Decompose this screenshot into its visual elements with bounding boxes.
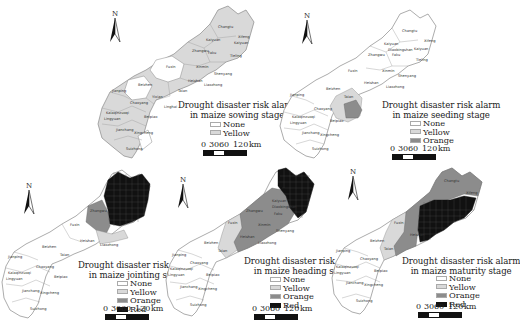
svg-text:Kalaqinzuoqi: Kalaqinzuoqi <box>292 115 315 119</box>
map-caption: Drought disaster risk alarm in maize see… <box>382 100 500 120</box>
svg-text:Diaobingshan: Diaobingshan <box>388 48 413 52</box>
svg-text:Taian: Taian <box>343 95 353 99</box>
svg-text:Taian: Taian <box>383 247 393 251</box>
svg-text:Xinmin: Xinmin <box>196 65 209 69</box>
svg-text:Liaozhong: Liaozhong <box>204 83 222 87</box>
svg-text:Shenyang: Shenyang <box>398 74 416 78</box>
svg-text:Chaoyang: Chaoyang <box>314 107 332 111</box>
svg-text:Beizhen: Beizhen <box>326 87 340 91</box>
svg-text:Changtu: Changtu <box>444 179 459 183</box>
svg-text:Zhangwu: Zhangwu <box>246 209 263 213</box>
svg-text:Xingcheng: Xingcheng <box>364 283 383 287</box>
svg-text:Liaozhong: Liaozhong <box>386 85 404 89</box>
svg-text:Heishan: Heishan <box>240 235 255 239</box>
svg-text:Xingcheng: Xingcheng <box>134 131 153 135</box>
svg-text:Lingyuan: Lingyuan <box>290 121 306 125</box>
svg-text:Suizhong: Suizhong <box>126 147 142 151</box>
svg-text:Kalaqinzuoqi: Kalaqinzuoqi <box>8 271 31 275</box>
scale-bar: 03060120km <box>392 144 448 160</box>
svg-text:Xifeng: Xifeng <box>466 191 478 195</box>
svg-text:Changtu: Changtu <box>402 29 417 33</box>
svg-text:Jianping: Jianping <box>7 255 22 259</box>
svg-text:Diaobingshan: Diaobingshan <box>272 205 297 209</box>
svg-text:Jianping: Jianping <box>335 249 350 253</box>
scale-bar: 03060120km <box>105 304 161 320</box>
svg-text:Taian: Taian <box>217 249 227 253</box>
map-panel-sowing: N ChangtuXifengKaiyuanKaiyuan ZhangwuFak… <box>88 0 268 160</box>
svg-text:Faku: Faku <box>392 53 400 57</box>
svg-text:Kalaqinzuoqi: Kalaqinzuoqi <box>106 111 129 115</box>
scale-bar: 03060120km <box>418 302 474 318</box>
svg-text:Kaiyuan: Kaiyuan <box>272 199 286 203</box>
svg-text:Jianchang: Jianchang <box>21 289 40 293</box>
svg-text:Beizhen: Beizhen <box>370 239 384 243</box>
svg-text:Xinmin: Xinmin <box>258 223 271 227</box>
svg-text:Faku: Faku <box>274 212 282 216</box>
svg-text:Beipiao: Beipiao <box>144 115 157 119</box>
svg-text:Xifeng: Xifeng <box>424 39 436 43</box>
svg-text:Shenyang: Shenyang <box>276 229 294 233</box>
svg-text:Fuxin: Fuxin <box>348 69 358 73</box>
svg-text:Beizhen: Beizhen <box>204 241 218 245</box>
svg-text:Zhangwu: Zhangwu <box>368 53 385 57</box>
svg-text:Lingyuan: Lingyuan <box>104 117 120 121</box>
scale-bar: 03060120km <box>254 304 310 320</box>
svg-text:Beipiao: Beipiao <box>330 119 343 123</box>
svg-text:Taian: Taian <box>59 253 69 257</box>
svg-text:Lingyuan: Lingyuan <box>6 277 22 281</box>
svg-text:Heishan: Heishan <box>364 81 379 85</box>
svg-text:Fuxin: Fuxin <box>228 221 238 225</box>
scale-bar: 03060120km <box>203 140 255 156</box>
svg-text:Chaoyang: Chaoyang <box>130 101 148 105</box>
svg-text:Jianchang: Jianchang <box>301 131 320 135</box>
svg-text:Zhangwu: Zhangwu <box>90 209 107 213</box>
svg-text:Xingcheng: Xingcheng <box>320 133 339 137</box>
svg-text:Yixian: Yixian <box>152 95 163 99</box>
map-legend: None Yellow Orange <box>410 119 454 145</box>
svg-text:Jianchang: Jianchang <box>115 128 134 132</box>
svg-text:Beizhen: Beizhen <box>42 245 56 249</box>
svg-text:Kaiyuan: Kaiyuan <box>414 47 428 51</box>
svg-text:Kalaqinzuoqi: Kalaqinzuoqi <box>336 265 359 269</box>
svg-text:Liaozhong: Liaozhong <box>100 243 118 247</box>
svg-text:Linghai: Linghai <box>164 105 177 109</box>
svg-text:Kalaqinzuoqi: Kalaqinzuoqi <box>170 267 193 271</box>
svg-text:Taian: Taian <box>177 89 187 93</box>
map-seeding: ChangtuXifengKaiyuanDiaobingshan Kaiyuan… <box>270 0 495 160</box>
svg-text:Kaiyuan: Kaiyuan <box>234 41 248 45</box>
legend-item-yellow: Yellow <box>210 129 250 138</box>
svg-text:Lingyuan: Lingyuan <box>168 273 184 277</box>
svg-text:Tieling: Tieling <box>415 58 428 62</box>
svg-text:Jianping: Jianping <box>289 93 304 97</box>
svg-text:Suizhong: Suizhong <box>190 303 206 307</box>
svg-text:Shenyang: Shenyang <box>214 72 232 76</box>
svg-text:Fuxin: Fuxin <box>166 65 176 69</box>
svg-text:Kaiyuan: Kaiyuan <box>206 38 220 42</box>
svg-text:Zhangwu: Zhangwu <box>192 49 209 53</box>
svg-text:Jianping: Jianping <box>171 253 186 257</box>
map-panel-heading: N KaiyuanDiaobingshanZhangwuFaku FuxinXi… <box>160 160 330 320</box>
map-panel-seeding: N ChangtuXifengKaiyuanDiaobingshan Kaiyu… <box>270 0 495 160</box>
svg-text:Chaoyang: Chaoyang <box>36 265 54 269</box>
svg-text:Suizhong: Suizhong <box>30 307 46 311</box>
svg-text:Fuxin: Fuxin <box>394 221 404 225</box>
svg-text:Beizhen: Beizhen <box>138 83 152 87</box>
svg-text:Kaiyuan: Kaiyuan <box>384 42 398 46</box>
svg-text:Suizhong: Suizhong <box>312 147 328 151</box>
svg-text:Changtu: Changtu <box>218 25 233 29</box>
svg-text:Jianchang: Jianchang <box>345 281 364 285</box>
svg-text:Xinmin: Xinmin <box>382 69 395 73</box>
map-legend: None Yellow <box>210 120 250 137</box>
svg-text:Tieling: Tieling <box>229 54 242 58</box>
svg-text:Xingcheng: Xingcheng <box>40 291 59 295</box>
svg-text:Heishan: Heishan <box>188 79 203 83</box>
svg-text:Beipiao: Beipiao <box>54 275 67 279</box>
svg-text:Jianchang: Jianchang <box>179 285 198 289</box>
svg-text:Jianping: Jianping <box>111 89 126 93</box>
svg-text:Xifeng: Xifeng <box>238 35 250 39</box>
svg-text:Liaozhong: Liaozhong <box>258 241 276 245</box>
svg-text:Chaoyang: Chaoyang <box>190 261 208 265</box>
map-panel-maturity: N ChangtuXifengFuxinHeishan BeizhenTaian… <box>320 160 495 320</box>
svg-text:Lingyuan: Lingyuan <box>334 271 350 275</box>
svg-text:Chaoyang: Chaoyang <box>360 257 378 261</box>
